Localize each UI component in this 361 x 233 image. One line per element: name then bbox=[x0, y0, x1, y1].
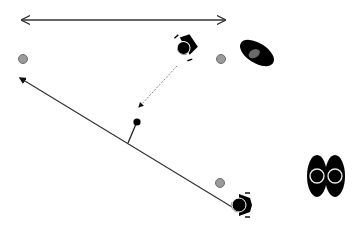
mannequin-icon bbox=[236, 34, 279, 71]
cone-icon bbox=[216, 179, 225, 188]
cone-icon bbox=[19, 55, 28, 64]
mannequin-pair-icon bbox=[307, 155, 345, 197]
ball-icon bbox=[133, 118, 140, 125]
ball-stem bbox=[128, 124, 136, 143]
drill-diagram bbox=[0, 0, 361, 233]
cone-icon bbox=[217, 55, 226, 64]
run-arrow bbox=[20, 78, 232, 207]
player-icon bbox=[231, 193, 252, 217]
player-icon bbox=[171, 29, 202, 63]
pass-arrow bbox=[139, 66, 177, 107]
